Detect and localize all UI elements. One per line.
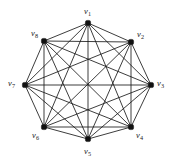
vertex-label-subscript: 4 [140,134,143,141]
vertex-label-subscript: 2 [141,33,144,40]
vertex-label-v4: v4 [136,131,143,140]
graph-vertex-v5 [85,136,90,141]
graph-figure: v1v2v3v4v5v6v7v8 [0,0,177,164]
vertex-label-subscript: 1 [88,10,91,17]
vertex-label-v5: v5 [84,147,91,156]
graph-edge [44,85,151,127]
graph-edge [131,42,151,85]
vertex-label-v8: v8 [31,29,38,38]
vertex-label-subscript: 3 [161,82,164,89]
vertex-label-v7: v7 [8,79,15,88]
vertex-label-v1: v1 [84,7,91,16]
graph-vertex-v2 [128,39,133,44]
graph-vertex-v7 [22,82,27,87]
graph-vertex-v4 [128,124,133,129]
graph-vertex-v1 [85,20,90,25]
vertex-label-v3: v3 [157,79,164,88]
graph-edge [44,41,151,85]
graph-canvas [0,0,177,164]
vertex-label-v2: v2 [137,30,144,39]
graph-vertex-v3 [148,82,153,87]
vertex-label-subscript: 6 [36,134,39,141]
vertex-label-v6: v6 [32,131,39,140]
vertex-label-subscript: 8 [35,32,38,39]
graph-edge [44,41,131,42]
graph-vertex-v8 [41,38,46,43]
vertex-label-subscript: 5 [88,150,91,157]
vertex-label-subscript: 7 [12,82,15,89]
graph-edge [88,23,131,127]
graph-vertex-v6 [41,124,46,129]
